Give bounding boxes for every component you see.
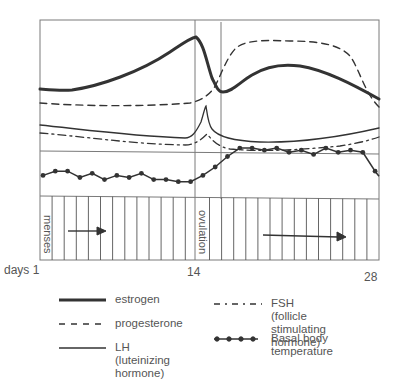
- legend-bbt-dot: [251, 337, 255, 341]
- bbt-data-point: [348, 148, 353, 153]
- bbt-data-point: [213, 165, 218, 170]
- x-tick-day-28: 28: [364, 270, 378, 284]
- bbt-data-point: [188, 179, 193, 184]
- bbt-data-point: [274, 146, 279, 151]
- bbt-data-point: [299, 148, 304, 153]
- menses-label: menses: [42, 215, 54, 254]
- legend-label-lh: LH (luteinizing hormone): [115, 341, 170, 380]
- bbt-data-point: [53, 169, 58, 174]
- bbt-data-point: [78, 175, 83, 180]
- bbt-data-point: [90, 171, 95, 176]
- estrogen-curve: [40, 37, 379, 99]
- bbt-data-point: [360, 150, 365, 155]
- ovulation-label: ovulation: [197, 210, 209, 254]
- bbt-data-point: [127, 175, 132, 180]
- menses-arrow-head-icon: [97, 227, 106, 235]
- legend-label-estrogen: estrogen: [115, 293, 160, 306]
- bbt-data-point: [336, 150, 341, 155]
- bbt-data-point: [65, 169, 70, 174]
- bbt-data-point: [139, 171, 144, 176]
- luteal-arrow: [263, 235, 338, 237]
- luteal-arrow-head-icon: [337, 232, 346, 241]
- legend-bbt-dot: [227, 337, 231, 341]
- x-tick-day-14: 14: [187, 265, 201, 279]
- bbt-data-point: [41, 173, 46, 178]
- legend-bbt-dot: [239, 337, 243, 341]
- bbt-data-point: [373, 169, 378, 174]
- x-tick-day-1: days 1: [4, 263, 40, 277]
- legend-label-bbt: Basal body temperature: [271, 332, 333, 358]
- bbt-data-point: [250, 146, 255, 151]
- bbt-data-point: [225, 154, 230, 159]
- legend-bbt-dot: [215, 337, 219, 341]
- bbt-data-point: [201, 173, 206, 178]
- bbt-data-point: [324, 146, 329, 151]
- bbt-data-point: [114, 173, 119, 178]
- bbt-data-point: [176, 179, 181, 184]
- bbt-data-point: [287, 150, 292, 155]
- bbt-data-point: [262, 148, 267, 153]
- bbt-data-point: [311, 152, 316, 157]
- legend-item-estrogen: estrogen: [115, 293, 160, 306]
- legend-item-lh: LH (luteinizing hormone): [115, 341, 170, 380]
- legend-item-progesterone: progesterone: [115, 317, 183, 330]
- hormone-panel-divider: [40, 151, 379, 154]
- legend-label-progesterone: progesterone: [115, 317, 183, 330]
- bbt-data-point: [237, 146, 242, 151]
- bbt-data-point: [151, 177, 156, 182]
- bbt-data-point: [102, 177, 107, 182]
- bbt-data-point: [164, 177, 169, 182]
- hormone-curves: [40, 37, 379, 150]
- legend-item-bbt: Basal body temperature: [271, 332, 333, 358]
